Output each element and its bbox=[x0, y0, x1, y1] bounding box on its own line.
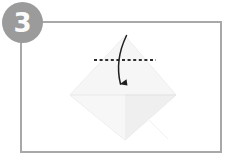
paper-fold-panel-left bbox=[70, 95, 125, 140]
origami-step-illustration: 3 bbox=[0, 0, 229, 162]
step-number-badge: 3 bbox=[2, 2, 43, 43]
step-number-label: 3 bbox=[13, 10, 31, 36]
paper-sheet bbox=[70, 36, 176, 140]
